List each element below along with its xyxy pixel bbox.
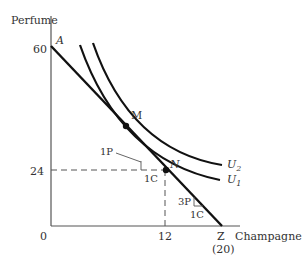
budget-line [51,46,222,226]
x-axis-label: Champagne [235,230,302,243]
x-tick-12: 12 [158,230,172,243]
curve-u1-label: U1 [227,173,241,188]
slope-n-horizontal-label: 1C [144,173,158,184]
y-tick-60: 60 [33,43,47,56]
point-n [163,167,169,173]
slope-budget-vertical-label: 3P [178,196,191,207]
point-m-label: M [131,109,142,122]
point-z-value: (20) [212,243,235,256]
curve-u2-label: U2 [227,158,241,173]
slope-budget-horizontal-label: 1C [190,209,204,220]
y-tick-24: 24 [30,165,44,178]
indifference-diagram: Perfume Champagne 0 60 24 12 A Z (20) M … [0,0,305,270]
point-m [123,123,129,129]
point-z-label: Z [217,230,225,243]
slope-n-vertical-label: 1P [100,146,113,157]
y-axis-label: Perfume [11,14,58,27]
origin-label: 0 [40,230,47,243]
point-a-label: A [55,34,64,47]
slope-leader-1p [116,153,141,162]
point-n-label: N [169,158,180,171]
